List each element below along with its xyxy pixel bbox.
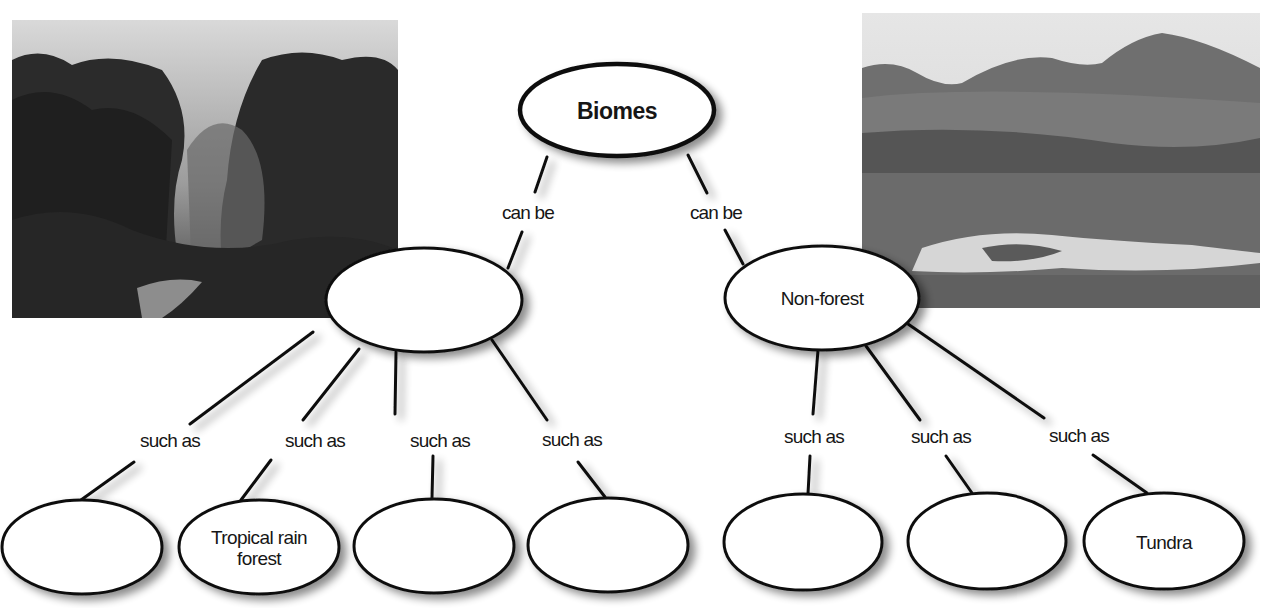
example-blank-node-1[interactable]	[2, 500, 162, 594]
link-label-such-as: such as	[1049, 425, 1109, 447]
connector-line	[578, 462, 605, 497]
connector-line	[81, 462, 134, 500]
link-label-such-as: such as	[911, 426, 971, 448]
link-label-such-as: such as	[410, 430, 470, 452]
tropical-rain-forest-label: Tropical rain forest	[211, 527, 307, 570]
connector-line	[303, 349, 359, 420]
link-label-such-as: such as	[140, 430, 200, 452]
link-label-can-be-right: can be	[690, 202, 742, 224]
link-label-such-as: such as	[542, 429, 602, 451]
connector-line	[432, 456, 433, 498]
example-blank-node-5[interactable]	[724, 494, 882, 590]
link-label-can-be-left: can be	[502, 202, 554, 224]
biomes-label: Biomes	[577, 99, 657, 125]
connector-line	[866, 346, 920, 420]
connector-line	[688, 155, 707, 193]
connector-line	[808, 456, 810, 494]
connector-line	[492, 340, 547, 420]
tropical-rain-forest-line2: forest	[211, 548, 307, 569]
connector-line	[535, 157, 547, 192]
connector-line	[813, 350, 818, 414]
connector-line	[1093, 455, 1147, 493]
example-blank-node-3[interactable]	[354, 499, 514, 593]
tropical-rain-forest-line1: Tropical rain	[211, 527, 307, 548]
link-label-such-as: such as	[285, 430, 345, 452]
connector-line	[508, 232, 522, 268]
connector-line	[395, 352, 396, 414]
example-blank-node-6[interactable]	[908, 493, 1066, 589]
link-label-such-as: such as	[784, 426, 844, 448]
connector-line	[241, 460, 271, 500]
example-blank-node-4[interactable]	[528, 498, 688, 592]
non-forest-label: Non-forest	[781, 288, 864, 309]
connector-line	[908, 324, 1044, 418]
forest-blank-node[interactable]	[326, 248, 522, 352]
connector-line	[190, 332, 313, 424]
connector-line	[946, 456, 972, 493]
connector-line	[725, 230, 743, 264]
tundra-label: Tundra	[1136, 532, 1192, 553]
